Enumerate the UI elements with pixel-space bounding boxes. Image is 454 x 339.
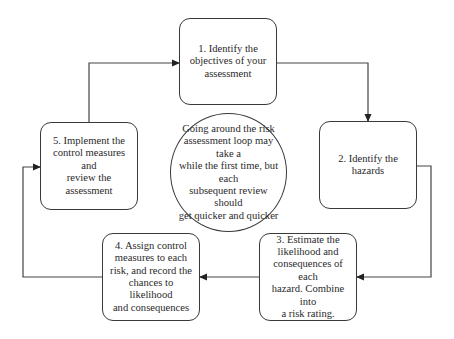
step-2-identify-hazards: 2. Identify the hazards: [319, 121, 417, 209]
step-4-label: 4. Assign control measures to each risk,…: [106, 240, 196, 314]
center-note-circle: Going around the risk assessment loop ma…: [170, 113, 287, 232]
risk-assessment-cycle-diagram: 1. Identify the objectives of your asses…: [0, 0, 454, 339]
step-3-label: 3. Estimate the likelihood and consequen…: [263, 234, 353, 321]
step-1-identify-objectives: 1. Identify the objectives of your asses…: [179, 18, 277, 105]
arrow-5-to-1: [89, 63, 179, 122]
step-1-label: 1. Identify the objectives of your asses…: [190, 43, 267, 80]
center-note-text: Going around the risk assessment loop ma…: [175, 123, 282, 222]
step-5-implement-review: 5. Implement the control measures and re…: [40, 122, 138, 210]
step-3-estimate-likelihood: 3. Estimate the likelihood and consequen…: [259, 233, 357, 321]
step-5-label: 5. Implement the control measures and re…: [44, 135, 134, 197]
arrow-1-to-2: [277, 63, 368, 121]
step-4-assign-controls: 4. Assign control measures to each risk,…: [102, 233, 200, 321]
step-2-label: 2. Identify the hazards: [338, 153, 398, 178]
